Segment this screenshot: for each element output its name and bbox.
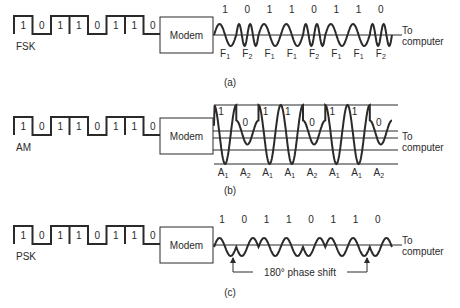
- wave-bit-label: 1: [356, 4, 362, 15]
- psk-carrier-wave: [214, 238, 392, 256]
- modulation-diagram: 10110110FSKModem1F10F21F11F10F21F11F10F2…: [0, 0, 460, 308]
- bit-label: 1: [20, 20, 26, 31]
- bit-label: 1: [57, 20, 63, 31]
- wave-bit-label: 1: [329, 106, 335, 117]
- amplitude-label: A1: [285, 167, 296, 179]
- bit-label: 0: [150, 230, 156, 241]
- wave-bit-label: 1: [331, 214, 337, 225]
- bit-label: 1: [113, 20, 119, 31]
- frequency-label: F1: [331, 48, 341, 60]
- modem-label: Modem: [170, 30, 203, 41]
- bit-label: 0: [39, 230, 45, 241]
- panel-fsk: 10110110FSKModem1F10F21F11F10F21F11F10F2…: [14, 4, 444, 88]
- bit-label: 1: [131, 20, 137, 31]
- bit-label: 0: [39, 121, 45, 132]
- wave-bit-label: 0: [243, 117, 249, 128]
- panel-caption: (c): [224, 287, 236, 298]
- bit-label: 0: [94, 230, 100, 241]
- bit-label: 0: [94, 121, 100, 132]
- wave-bit-label: 0: [378, 4, 384, 15]
- output-label: computer: [402, 246, 444, 257]
- phase-shift-annotation: 180° phase shift: [264, 267, 336, 278]
- modem-label: Modem: [170, 131, 203, 142]
- wave-bit-label: 1: [264, 214, 270, 225]
- output-label: To: [402, 25, 413, 36]
- bit-label: 1: [76, 230, 82, 241]
- frequency-label: F1: [354, 48, 364, 60]
- bit-label: 0: [39, 20, 45, 31]
- wave-bit-label: 1: [334, 4, 340, 15]
- modulation-label: PSK: [16, 251, 36, 262]
- wave-bit-label: 1: [218, 106, 224, 117]
- wave-bit-label: 1: [285, 106, 291, 117]
- am-carrier-wave: [214, 105, 392, 164]
- wave-bit-label: 1: [352, 106, 358, 117]
- bit-label: 1: [57, 230, 63, 241]
- wave-bit-label: 1: [353, 214, 359, 225]
- frequency-label: F1: [287, 48, 297, 60]
- wave-bit-label: 0: [308, 214, 314, 225]
- bit-label: 1: [76, 121, 82, 132]
- amplitude-label: A2: [240, 167, 251, 179]
- panel-caption: (b): [224, 185, 236, 196]
- wave-bit-label: 0: [375, 214, 381, 225]
- amplitude-label: A1: [329, 167, 340, 179]
- wave-bit-label: 1: [219, 214, 225, 225]
- bitstream-wave: [14, 117, 162, 135]
- output-label: To: [402, 235, 413, 246]
- wave-bit-label: 0: [245, 4, 251, 15]
- amplitude-label: A1: [218, 167, 229, 179]
- panel-caption: (a): [224, 77, 236, 88]
- modem-label: Modem: [170, 240, 203, 251]
- output-label: computer: [402, 142, 444, 153]
- bit-label: 0: [150, 20, 156, 31]
- phase-shift-bracket-left: [233, 258, 253, 272]
- amplitude-label: A2: [374, 167, 385, 179]
- wave-bit-label: 1: [289, 4, 295, 15]
- bit-label: 1: [113, 230, 119, 241]
- modulation-label: AM: [16, 142, 31, 153]
- bit-label: 1: [113, 121, 119, 132]
- amplitude-label: A1: [351, 167, 362, 179]
- bitstream-wave: [14, 226, 162, 244]
- panel-psk: 10110110PSKModem10110110180° phase shift…: [14, 214, 444, 298]
- bit-label: 1: [57, 121, 63, 132]
- bit-label: 0: [94, 20, 100, 31]
- bit-label: 0: [150, 121, 156, 132]
- amplitude-label: A2: [307, 167, 318, 179]
- bit-label: 1: [76, 20, 82, 31]
- wave-bit-label: 1: [267, 4, 273, 15]
- wave-bit-label: 1: [263, 106, 269, 117]
- phase-shift-bracket-right: [347, 258, 367, 272]
- bit-label: 1: [20, 230, 26, 241]
- amplitude-label: A1: [262, 167, 273, 179]
- bitstream-wave: [14, 16, 162, 34]
- panel-am: 10110110AMModem1A10A21A11A10A21A11A10A2T…: [14, 105, 444, 196]
- output-label: computer: [402, 36, 444, 47]
- bit-label: 1: [20, 121, 26, 132]
- wave-bit-label: 0: [311, 4, 317, 15]
- arrow-up-icon: [230, 257, 236, 263]
- wave-bit-label: 1: [286, 214, 292, 225]
- arrow-up-icon: [364, 257, 370, 263]
- modulation-label: FSK: [16, 41, 36, 52]
- frequency-label: F2: [309, 48, 319, 60]
- wave-bit-label: 0: [309, 117, 315, 128]
- bit-label: 1: [131, 121, 137, 132]
- frequency-label: F1: [220, 48, 230, 60]
- wave-bit-label: 1: [222, 4, 228, 15]
- wave-bit-label: 0: [376, 117, 382, 128]
- output-label: To: [402, 131, 413, 142]
- diagram-svg: 10110110FSKModem1F10F21F11F10F21F11F10F2…: [0, 0, 460, 308]
- bit-label: 1: [131, 230, 137, 241]
- frequency-label: F1: [265, 48, 275, 60]
- wave-bit-label: 0: [242, 214, 248, 225]
- frequency-label: F2: [376, 48, 386, 60]
- frequency-label: F2: [242, 48, 252, 60]
